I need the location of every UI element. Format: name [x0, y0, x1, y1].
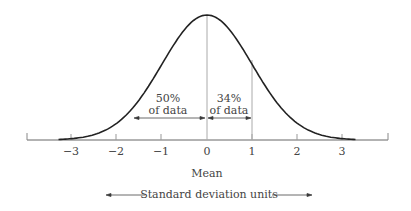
tick-label: 1: [249, 145, 256, 158]
annotation-34-caption: of data: [210, 105, 249, 117]
tick-label: 2: [294, 145, 301, 158]
axis-title: Standard deviation units: [140, 188, 278, 201]
tick-label: 0: [204, 145, 211, 158]
annotation-50-caption: of data: [149, 105, 188, 117]
annotation-50-percent: 50% of data: [149, 93, 188, 117]
tick-label: −1: [153, 145, 169, 158]
annotation-34-percent: 34% of data: [210, 93, 249, 117]
tick-label: 3: [339, 145, 346, 158]
tick-label: −3: [63, 145, 79, 158]
tick-label: −2: [108, 145, 124, 158]
mean-label: Mean: [191, 167, 222, 180]
